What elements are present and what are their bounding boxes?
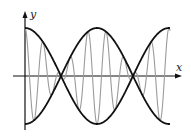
y-axis-arrow-icon [23,11,28,18]
x-axis-arrow-icon [175,74,182,79]
y-axis-label: y [29,8,37,21]
beats-plot: x y [0,0,191,136]
x-axis-label: x [176,61,183,74]
